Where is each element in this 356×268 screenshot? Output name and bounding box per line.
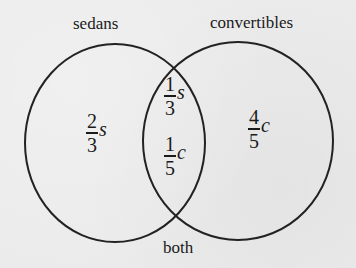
denominator: 3 <box>164 99 176 118</box>
sedans-label: sedans <box>73 14 118 34</box>
denominator: 5 <box>248 132 260 151</box>
both-convertibles-fraction: 1 5 c <box>164 135 186 178</box>
convertibles-label: convertibles <box>210 13 293 33</box>
venn-diagram <box>0 0 356 268</box>
denominator: 5 <box>164 159 176 178</box>
both-sedans-fraction: 1 3 s <box>164 75 185 118</box>
variable: c <box>177 141 186 164</box>
variable: c <box>261 114 270 137</box>
numerator: 1 <box>164 135 176 154</box>
numerator: 2 <box>86 112 98 131</box>
convertibles-only-fraction: 4 5 c <box>248 108 270 151</box>
variable: s <box>177 81 185 104</box>
sedans-only-fraction: 2 3 s <box>86 112 107 155</box>
variable: s <box>99 118 107 141</box>
numerator: 4 <box>248 108 260 127</box>
denominator: 3 <box>86 136 98 155</box>
both-label: both <box>163 238 193 258</box>
numerator: 1 <box>164 75 176 94</box>
